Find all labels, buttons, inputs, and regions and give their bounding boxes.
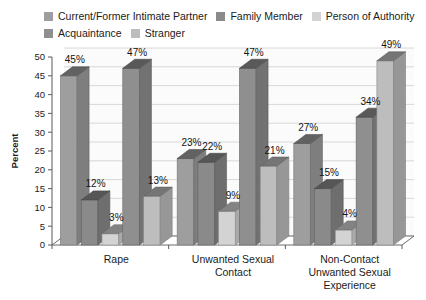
bar-front <box>335 230 352 245</box>
bar-front <box>315 189 332 245</box>
bar-value-label: 27% <box>298 122 318 133</box>
bar-value-label: 45% <box>65 54 85 65</box>
category-label: Rape <box>104 253 129 265</box>
bar-side <box>277 157 289 245</box>
y-tick-label: 35 <box>34 108 45 119</box>
y-axis-title-text: Percent <box>9 133 20 169</box>
bar-value-label: 47% <box>127 47 147 58</box>
bar-front <box>81 200 98 245</box>
category-labels: RapeUnwanted SexualContactNon-ContactUnw… <box>52 245 402 291</box>
category-label: Unwanted Sexual <box>309 266 391 278</box>
bar-value-label: 13% <box>148 175 168 186</box>
bar-value-label: 49% <box>381 39 401 50</box>
category-label: Experience <box>323 279 376 291</box>
bar-front <box>102 234 119 245</box>
bar-front <box>260 166 277 245</box>
bar-value-label: 23% <box>181 137 201 148</box>
bar-front <box>177 159 194 245</box>
bar-front <box>239 68 256 245</box>
bar-value-label: 4% <box>342 208 357 219</box>
category-label: Non-Contact <box>320 253 379 265</box>
bar-value-label: 34% <box>360 96 380 107</box>
bar-side <box>394 52 406 245</box>
bar-front <box>219 211 236 245</box>
category-label: Unwanted Sexual <box>192 253 274 265</box>
plot-area-container: 05101520253035404550 45%12%3%47%13%23%22… <box>0 0 426 300</box>
y-tick-label: 40 <box>34 89 45 100</box>
y-tick-label: 25 <box>34 145 45 156</box>
bar-front <box>294 143 311 245</box>
y-axis-title: Percent <box>9 133 20 169</box>
bar-value-label: 12% <box>86 178 106 189</box>
category-label: Contact <box>215 266 251 278</box>
bar-side <box>160 187 172 245</box>
y-tick-label: 45 <box>34 70 45 81</box>
y-tick-label: 50 <box>34 51 45 62</box>
y-tick-label: 0 <box>40 239 45 250</box>
y-axis <box>48 57 52 245</box>
bar-value-label: 47% <box>244 47 264 58</box>
bar-value-label: 22% <box>202 141 222 152</box>
y-tick-label: 15 <box>34 183 45 194</box>
y-tick-label: 20 <box>34 164 45 175</box>
y-tick-label: 10 <box>34 202 45 213</box>
bar-value-label: 15% <box>319 167 339 178</box>
bar-front <box>198 162 215 245</box>
bar-front <box>144 196 161 245</box>
bar-front <box>377 61 394 245</box>
bar-front <box>356 117 373 245</box>
y-tick-label: 5 <box>40 221 45 232</box>
y-tick-label: 30 <box>34 127 45 138</box>
bar-value-label: 21% <box>265 145 285 156</box>
bar-chart: Current/Former Intimate Partner Family M… <box>0 0 426 300</box>
bar-front <box>60 76 77 245</box>
y-tick-labels: 05101520253035404550 <box>34 51 45 250</box>
plot-svg: 05101520253035404550 45%12%3%47%13%23%22… <box>0 0 426 300</box>
bar-front <box>123 68 140 245</box>
bar-value-label: 9% <box>226 190 241 201</box>
bar-value-label: 3% <box>109 212 124 223</box>
